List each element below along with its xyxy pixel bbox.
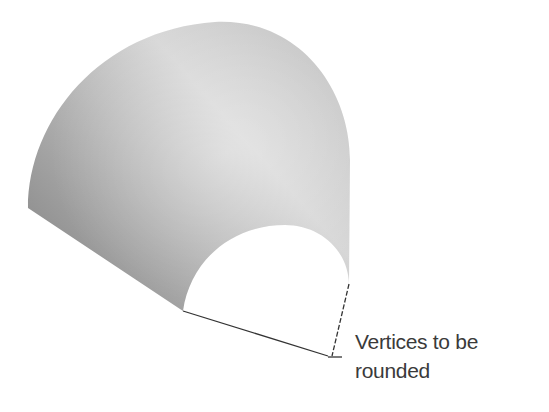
- right-edge-line: [332, 284, 349, 356]
- callout-label-line1: Vertices to be: [355, 327, 478, 357]
- shell-surface-highlight: [28, 22, 350, 311]
- callout-label-line2: rounded: [355, 356, 430, 386]
- bottom-edge-line: [183, 311, 328, 356]
